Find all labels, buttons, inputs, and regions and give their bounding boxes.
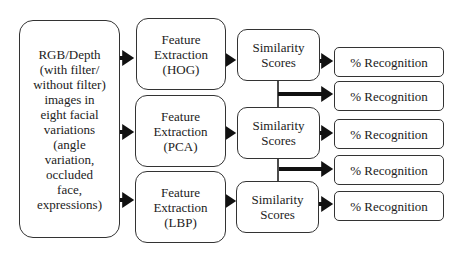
fe-line: (LBP) bbox=[153, 215, 207, 230]
recognition-label: % Recognition bbox=[350, 127, 428, 142]
recognition-box-1: % Recognition bbox=[334, 47, 444, 77]
feature-extraction-hog-box: Feature Extraction (HOG) bbox=[136, 18, 226, 90]
feature-extraction-pca-box: Feature Extraction (PCA) bbox=[135, 95, 226, 167]
input-line: RGB/Depth bbox=[33, 47, 106, 62]
input-line: images in bbox=[33, 92, 106, 107]
recognition-label: % Recognition bbox=[350, 89, 428, 104]
recognition-box-5: % Recognition bbox=[334, 191, 444, 221]
sim-line: Scores bbox=[253, 133, 305, 148]
fe-line: Feature bbox=[153, 185, 207, 200]
recognition-box-3: % Recognition bbox=[334, 119, 444, 149]
fe-line: Feature bbox=[153, 109, 207, 124]
input-line: occluded bbox=[33, 167, 106, 182]
recognition-label: % Recognition bbox=[350, 163, 428, 178]
input-line: without filter) bbox=[33, 77, 106, 92]
fe-line: (HOG) bbox=[154, 62, 208, 77]
recognition-label: % Recognition bbox=[350, 199, 428, 214]
recognition-box-4: % Recognition bbox=[334, 155, 444, 185]
similarity-scores-lbp-box: Similarity Scores bbox=[236, 181, 319, 233]
sim-line: Scores bbox=[252, 207, 304, 222]
input-line: variations bbox=[33, 122, 106, 137]
input-line: (with filter/ bbox=[33, 62, 106, 77]
similarity-scores-hog-box: Similarity Scores bbox=[237, 29, 320, 81]
sim-line: Similarity bbox=[253, 118, 305, 133]
feature-extraction-lbp-box: Feature Extraction (LBP) bbox=[135, 171, 226, 243]
sim-line: Similarity bbox=[253, 40, 305, 55]
input-line: (angle bbox=[33, 137, 106, 152]
input-line: face, bbox=[33, 182, 106, 197]
similarity-scores-pca-box: Similarity Scores bbox=[237, 107, 320, 159]
fe-line: Feature bbox=[154, 32, 208, 47]
recognition-label: % Recognition bbox=[350, 55, 428, 70]
sim-line: Scores bbox=[253, 55, 305, 70]
fe-line: Extraction bbox=[154, 47, 208, 62]
recognition-box-2: % Recognition bbox=[334, 81, 444, 111]
fe-line: Extraction bbox=[153, 124, 207, 139]
fe-line: (PCA) bbox=[153, 139, 207, 154]
input-images-box: RGB/Depth (with filter/ without filter) … bbox=[19, 20, 120, 238]
input-line: expressions) bbox=[33, 197, 106, 212]
sim-line: Similarity bbox=[252, 192, 304, 207]
input-line: variation, bbox=[33, 152, 106, 167]
fe-line: Extraction bbox=[153, 200, 207, 215]
input-line: eight facial bbox=[33, 107, 106, 122]
